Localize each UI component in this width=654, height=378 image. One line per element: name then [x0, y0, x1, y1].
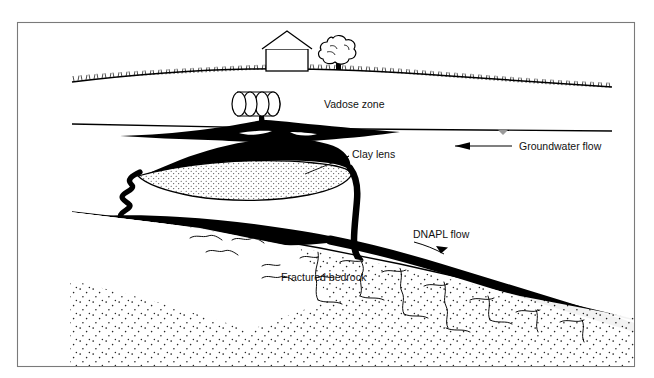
figure-canvas: Vadose zone Groundwater flow Clay lens D…: [0, 0, 654, 378]
label-fractured-bedrock: Fractured bedrock: [281, 271, 367, 283]
label-clay-lens: Clay lens: [352, 148, 395, 160]
label-groundwater-flow: Groundwater flow: [519, 140, 602, 152]
dnapl-cross-section-diagram: Vadose zone Groundwater flow Clay lens D…: [0, 0, 654, 378]
fractured-bedrock-annotation: Fractured bedrock: [281, 271, 367, 283]
waste-drums-icon: [232, 92, 280, 116]
label-vadose-zone: Vadose zone: [324, 98, 385, 110]
label-dnapl-flow: DNAPL flow: [413, 228, 470, 240]
